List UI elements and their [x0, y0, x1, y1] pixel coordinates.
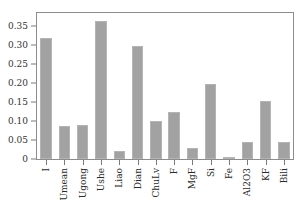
- y-axis: 00.050.100.150.200.250.300.35: [0, 12, 32, 160]
- bar: [95, 21, 106, 159]
- bar: [205, 84, 216, 159]
- y-tick-mark: [31, 45, 36, 46]
- x-tick-label: I: [42, 168, 51, 214]
- x-tick-mark: [83, 160, 84, 165]
- x-tick-label: Bili: [280, 168, 289, 214]
- x-tick-mark: [192, 160, 193, 165]
- bar: [132, 46, 143, 159]
- bar-slot: [187, 13, 198, 159]
- x-tick-label: Si: [207, 168, 216, 214]
- bar: [150, 121, 161, 159]
- y-tick-mark: [31, 83, 36, 84]
- bar-chart: 00.050.100.150.200.250.300.35 IUmeanUgon…: [0, 0, 301, 216]
- bar-slot: [223, 13, 234, 159]
- x-tick-mark: [64, 160, 65, 165]
- x-tick-mark: [247, 160, 248, 165]
- y-tick-mark: [31, 102, 36, 103]
- bar: [59, 126, 70, 159]
- bar: [260, 101, 271, 159]
- x-tick-label: Umean: [60, 168, 69, 214]
- bar-slot: [168, 13, 179, 159]
- y-tick-label: 0.35: [8, 22, 28, 31]
- x-tick-label: Ugong: [79, 168, 88, 214]
- y-tick-mark: [31, 64, 36, 65]
- bar: [278, 142, 289, 159]
- bar-slot: [59, 13, 70, 159]
- y-tick-label: 0: [22, 155, 28, 164]
- x-tick-mark: [101, 160, 102, 165]
- x-tick-mark: [229, 160, 230, 165]
- bar: [168, 112, 179, 159]
- x-tick-label: KF: [262, 168, 271, 214]
- x-tick-label: Liao: [115, 168, 124, 214]
- bar-slot: [77, 13, 88, 159]
- bar-slot: [205, 13, 216, 159]
- bar-slot: [95, 13, 106, 159]
- x-tick-label: Fe: [225, 168, 234, 214]
- y-tick-label: 0.10: [8, 117, 28, 126]
- x-tick-label: Dian: [134, 168, 143, 214]
- bars-layer: [37, 13, 293, 159]
- x-tick-mark: [266, 160, 267, 165]
- x-tick-label: Al2O3: [243, 168, 252, 214]
- y-tick-label: 0.20: [8, 79, 28, 88]
- x-tick-mark: [174, 160, 175, 165]
- y-tick-mark: [31, 159, 36, 160]
- y-tick-label: 0.15: [8, 98, 28, 107]
- y-tick-label: 0.25: [8, 60, 28, 69]
- x-tick-mark: [211, 160, 212, 165]
- x-axis: IUmeanUgongUsheLiaoDianChuLvFMgFSiFeAl2O…: [37, 160, 293, 216]
- bar: [40, 38, 51, 159]
- y-tick-mark: [31, 121, 36, 122]
- bar: [187, 148, 198, 159]
- bar-slot: [242, 13, 253, 159]
- bar: [242, 142, 253, 159]
- x-tick-mark: [46, 160, 47, 165]
- bar-slot: [278, 13, 289, 159]
- bar-slot: [260, 13, 271, 159]
- x-tick-mark: [284, 160, 285, 165]
- x-tick-mark: [156, 160, 157, 165]
- bar-slot: [150, 13, 161, 159]
- y-tick-mark: [31, 140, 36, 141]
- x-tick-mark: [138, 160, 139, 165]
- bar: [223, 157, 234, 159]
- bar: [114, 151, 125, 159]
- bar: [77, 125, 88, 159]
- bar-slot: [40, 13, 51, 159]
- x-tick-label: MgF: [188, 168, 197, 214]
- y-tick-mark: [31, 26, 36, 27]
- bar-slot: [132, 13, 143, 159]
- bar-slot: [114, 13, 125, 159]
- y-tick-label: 0.05: [8, 136, 28, 145]
- x-tick-label: F: [170, 168, 179, 214]
- x-tick-mark: [119, 160, 120, 165]
- x-tick-label: Ushe: [97, 168, 106, 214]
- y-tick-label: 0.30: [8, 41, 28, 50]
- x-tick-label: ChuLv: [152, 168, 161, 214]
